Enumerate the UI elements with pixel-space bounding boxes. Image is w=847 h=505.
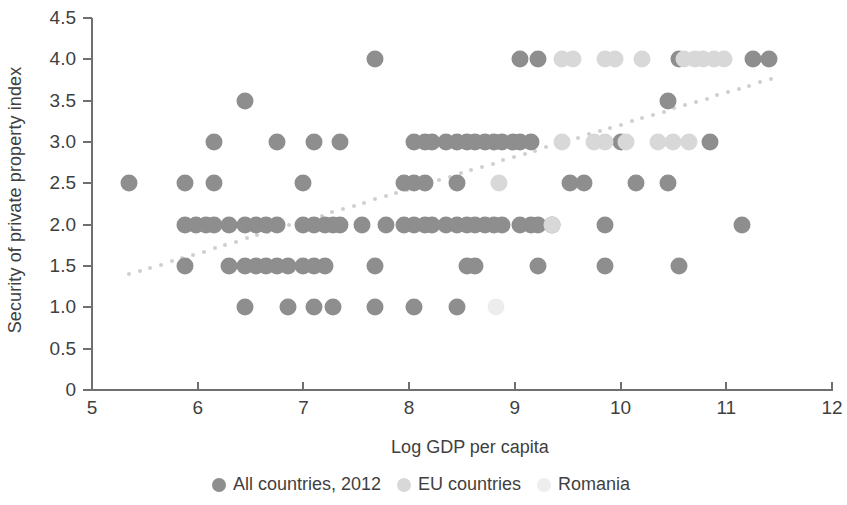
data-point — [565, 51, 582, 68]
trendline-dot — [619, 123, 623, 127]
data-point — [177, 175, 194, 192]
trendline-dot — [191, 253, 195, 257]
data-point — [367, 258, 384, 275]
data-point — [177, 258, 194, 275]
data-point — [279, 299, 296, 316]
trendline-dot — [480, 165, 484, 169]
trendline-dot — [170, 259, 174, 263]
data-point — [702, 134, 719, 151]
legend-item[interactable]: Romania — [537, 474, 630, 495]
data-point — [522, 134, 539, 151]
trendline-dot — [662, 110, 666, 114]
legend-item-label: Romania — [558, 474, 630, 495]
data-point — [607, 51, 624, 68]
y-axis-tick-label: 2.5 — [0, 172, 76, 194]
data-point — [530, 51, 547, 68]
data-point — [295, 175, 312, 192]
trendline-dot — [683, 103, 687, 107]
x-axis-tick-label: 6 — [178, 397, 218, 419]
trendline-dot — [234, 240, 238, 244]
trendline-dot — [758, 80, 762, 84]
legend-item[interactable]: All countries, 2012 — [212, 474, 381, 495]
trendline-dot — [437, 178, 441, 182]
data-point — [665, 134, 682, 151]
y-axis-tick-label: 3.5 — [0, 90, 76, 112]
trendline-dot — [491, 162, 495, 166]
data-point — [221, 258, 238, 275]
legend-item-label: EU countries — [418, 474, 521, 495]
y-axis-tick-label: 1.5 — [0, 255, 76, 277]
y-axis-tick-label: 1.0 — [0, 296, 76, 318]
data-point — [306, 134, 323, 151]
data-point — [237, 92, 254, 109]
data-point — [716, 51, 733, 68]
data-point — [269, 216, 286, 233]
trendline-dot — [598, 129, 602, 133]
data-point — [205, 216, 222, 233]
data-point — [406, 299, 423, 316]
data-point — [306, 299, 323, 316]
trendline-dot — [213, 246, 217, 250]
data-point — [367, 51, 384, 68]
x-axis-tick-label: 10 — [601, 397, 641, 419]
trendline-dot — [245, 236, 249, 240]
y-axis-tick-label: 2.0 — [0, 214, 76, 236]
data-point — [512, 51, 529, 68]
data-point — [417, 175, 434, 192]
trendline-dot — [223, 243, 227, 247]
data-point — [448, 299, 465, 316]
x-axis-tick-label: 9 — [495, 397, 535, 419]
trendline-dot — [127, 272, 131, 276]
data-point — [734, 216, 751, 233]
trendline-dot — [726, 90, 730, 94]
x-axis-tick-label: 7 — [283, 397, 323, 419]
trendline-dot — [737, 87, 741, 91]
trendline-dot — [394, 191, 398, 195]
trendline-dot — [651, 113, 655, 117]
trendline-dot — [330, 210, 334, 214]
data-point — [121, 175, 138, 192]
data-point — [670, 258, 687, 275]
data-point — [448, 175, 465, 192]
data-point — [269, 134, 286, 151]
y-axis-tick-label: 0.5 — [0, 338, 76, 360]
data-point — [316, 258, 333, 275]
legend-item-label: All countries, 2012 — [233, 474, 381, 495]
x-axis-tick-label: 11 — [706, 397, 746, 419]
trendline-dot — [576, 136, 580, 140]
x-axis-tick-label: 5 — [72, 397, 112, 419]
data-point — [466, 258, 483, 275]
data-point — [353, 216, 370, 233]
data-point — [660, 175, 677, 192]
data-point — [494, 216, 511, 233]
y-axis-tick-label: 4.0 — [0, 48, 76, 70]
data-point — [681, 134, 698, 151]
trendline-dot — [384, 194, 388, 198]
data-point — [596, 134, 613, 151]
data-point — [633, 51, 650, 68]
data-point — [617, 134, 634, 151]
legend-item[interactable]: EU countries — [397, 474, 521, 495]
trendline-dot — [373, 197, 377, 201]
data-point — [332, 216, 349, 233]
trendline-dot — [694, 100, 698, 104]
x-axis-title: Log GDP per capita — [100, 437, 840, 458]
trendline-dot — [705, 97, 709, 101]
x-axis-tick-label: 8 — [389, 397, 429, 419]
data-point — [205, 134, 222, 151]
legend-marker-icon — [397, 478, 411, 492]
trendline-dot — [523, 152, 527, 156]
trendline-dot — [287, 223, 291, 227]
trendline-dot — [640, 116, 644, 120]
data-point — [596, 258, 613, 275]
data-point — [332, 134, 349, 151]
trendline-dot — [341, 207, 345, 211]
data-point — [744, 51, 761, 68]
trendline-dot — [159, 263, 163, 267]
trendline-dot — [138, 269, 142, 273]
trendline-dot — [148, 266, 152, 270]
chart-legend: All countries, 2012EU countriesRomania — [0, 474, 842, 495]
legend-marker-icon — [212, 478, 226, 492]
data-point — [237, 299, 254, 316]
